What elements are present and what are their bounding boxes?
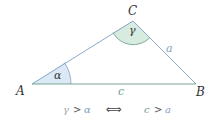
side-b (32, 21, 133, 84)
vertex-label-b: B (195, 85, 205, 99)
relation-gamma: γ (63, 104, 69, 115)
relation-gt-2: > (154, 104, 162, 115)
relation-alpha: α (84, 104, 91, 115)
relation-c: c (144, 104, 150, 115)
vertex-label-c: C (128, 4, 137, 18)
side-label-a: a (166, 42, 173, 55)
angle-label-alpha: α (54, 69, 62, 82)
relation-gt-1: > (73, 104, 81, 115)
side-label-c: c (118, 85, 124, 98)
triangle-diagram: C A B γ α a c γ > α ⟺ c > a (0, 0, 218, 122)
angle-label-gamma: γ (129, 24, 136, 37)
iff-arrow-icon: ⟺ (106, 103, 122, 116)
side-a (133, 21, 196, 84)
relation-a: a (165, 104, 171, 115)
vertex-label-a: A (15, 84, 25, 98)
